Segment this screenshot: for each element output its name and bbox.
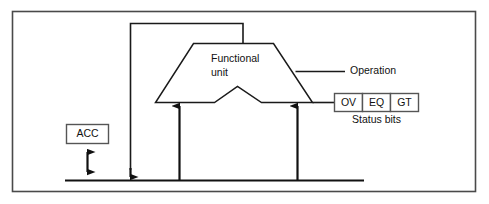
status-bit-label-eq: EQ (369, 96, 384, 108)
status-bits-caption: Status bits (352, 113, 401, 125)
operation-label: Operation (350, 64, 396, 76)
status-bit-label-gt: GT (397, 96, 412, 108)
accumulator-label: ACC (76, 127, 99, 139)
status-bit-label-ov: OV (341, 96, 356, 108)
figure-root: Functional unit Operation OV EQ GT Statu… (0, 0, 489, 204)
block-diagram-canvas: Functional unit Operation OV EQ GT Statu… (0, 0, 489, 204)
functional-unit-label-line1: Functional (211, 52, 259, 64)
functional-unit-label-line2: unit (211, 66, 228, 78)
